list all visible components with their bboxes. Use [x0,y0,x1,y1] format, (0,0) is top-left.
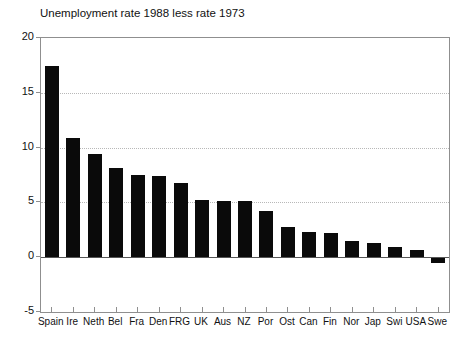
bar-ire [66,138,80,257]
bar-fin [324,233,338,257]
x-label-swe: Swe [420,316,454,328]
plot-area [40,37,450,313]
y-label-0: 0 [0,249,34,262]
y-tick-15 [36,92,40,93]
bar-can [302,232,316,257]
x-tick-fin [330,307,331,312]
gridline-10 [41,148,449,149]
x-tick-uk [202,307,203,312]
x-tick-spain [51,307,52,312]
bar-nor [345,241,359,257]
x-tick-den [159,307,160,312]
bar-jap [367,243,381,257]
x-tick-usa [416,307,417,312]
x-tick-ire [73,307,74,312]
chart-title: Unemployment rate 1988 less rate 1973 [40,7,245,19]
bar-usa [410,250,424,258]
bar-chart-figure: Unemployment rate 1988 less rate 1973 Sp… [0,0,470,347]
x-tick-jap [373,307,374,312]
x-tick-frg [180,307,181,312]
bar-swe [431,258,445,262]
x-tick-neth [94,307,95,312]
bar-bel [109,168,123,257]
x-tick-swe [438,307,439,312]
x-tick-aus [223,307,224,312]
y-tick-10 [36,147,40,148]
x-tick-fra [137,307,138,312]
x-tick-bel [116,307,117,312]
bar-por [259,211,273,257]
x-tick-por [266,307,267,312]
y-tick-5 [36,201,40,202]
x-tick-nor [352,307,353,312]
bar-swi [388,247,402,257]
bar-uk [195,200,209,257]
x-tick-nz [245,307,246,312]
bar-neth [88,154,102,257]
y-label-5: 5 [0,194,34,207]
bar-den [152,176,166,257]
bar-fra [131,175,145,257]
bar-aus [217,201,231,257]
y-label-20: 20 [0,30,34,43]
y-tick--5 [36,311,40,312]
y-label-10: 10 [0,140,34,153]
y-tick-0 [36,256,40,257]
bar-ost [281,227,295,258]
bar-frg [174,183,188,258]
y-label--5: -5 [0,304,34,317]
x-tick-can [309,307,310,312]
y-tick-20 [36,37,40,38]
bar-spain [45,66,59,257]
gridline-15 [41,93,449,94]
bar-nz [238,201,252,257]
x-tick-ost [287,307,288,312]
x-tick-swi [395,307,396,312]
y-label-15: 15 [0,85,34,98]
